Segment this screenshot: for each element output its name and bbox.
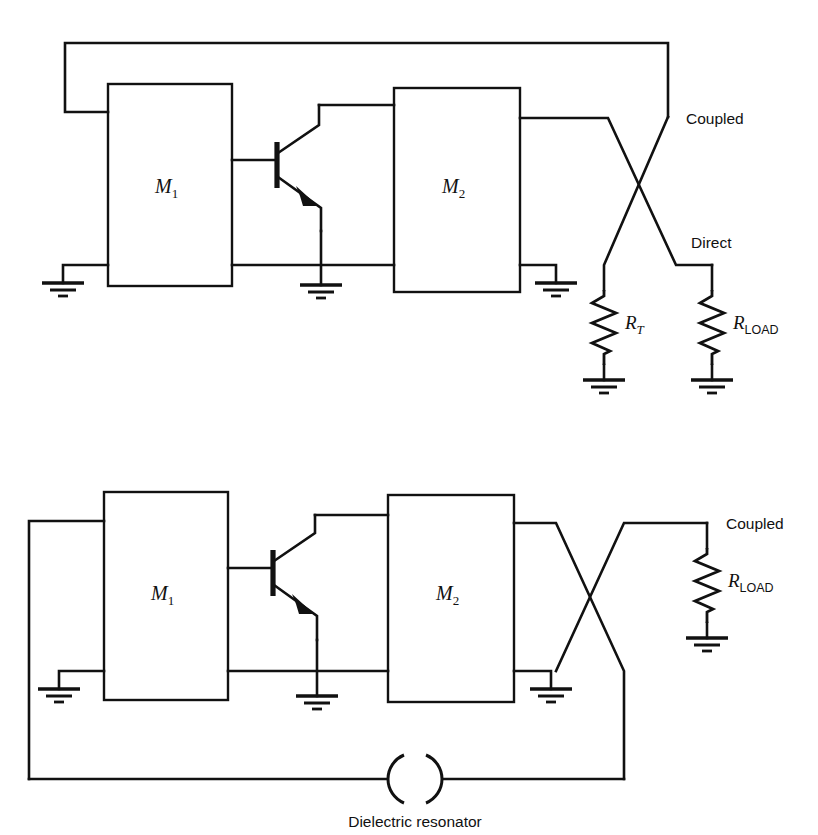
circuit-figure: M1 M2 [0, 0, 818, 835]
block-m1-bottom-label: M1 [150, 582, 174, 608]
m2-output-crossing-wire [520, 118, 712, 265]
transistor-q1 [277, 105, 321, 231]
resonator-to-coupled-wire [556, 523, 707, 671]
circuit-svg: M1 M2 [0, 0, 818, 835]
ground-symbol-rload-top [691, 380, 733, 393]
dielectric-resonator-arc-right [426, 755, 442, 803]
ground-symbol-m1 [42, 283, 84, 296]
resistor-rload-bottom-zigzag [695, 548, 719, 623]
label-coupled-bottom: Coupled [726, 515, 784, 532]
resistor-rload-top-zigzag [700, 290, 724, 365]
top-circuit: M1 M2 [42, 43, 779, 393]
label-direct-top: Direct [691, 234, 732, 251]
transistor-q1-bottom [273, 515, 317, 640]
resistor-rload-top: RLOAD [700, 265, 779, 380]
ground-symbol-rload-bottom [686, 638, 728, 651]
m1-ground-wire [63, 265, 108, 283]
resistor-rload-bottom: RLOAD [695, 523, 774, 638]
ground-symbol-m2-bottom [530, 689, 572, 702]
dielectric-resonator-arc-left [388, 755, 404, 803]
ground-symbol-emitter [300, 285, 342, 298]
ground-symbol-m2 [535, 283, 577, 296]
block-m2-label: M2 [441, 175, 465, 201]
bottom-left-feedback-wire [29, 521, 104, 779]
m2-ground-wire [520, 265, 556, 283]
m1-ground-wire-bottom [59, 671, 104, 689]
dielectric-resonator-caption: Dielectric resonator [348, 813, 482, 830]
resistor-rt-zigzag [592, 290, 616, 365]
dielectric-resonator-symbol [388, 755, 442, 803]
ground-symbol-m1-bottom [38, 689, 80, 702]
resistor-rload-top-label: RLOAD [732, 312, 779, 337]
feedback-crossing-to-rt-wire [604, 117, 668, 290]
ground-symbol-rt [583, 380, 625, 393]
m2-ground-wire-bottom [514, 671, 551, 689]
block-m2-bottom-label: M2 [435, 582, 459, 608]
resistor-rt: RT [592, 290, 645, 380]
bottom-circuit: M1 M2 [29, 492, 784, 830]
transistor-collector-lead [278, 105, 319, 153]
transistor-collector-lead-bottom [274, 515, 315, 561]
ground-symbol-emitter-bottom [296, 696, 338, 709]
resistor-rt-label: RT [624, 312, 645, 337]
block-m1-label: M1 [154, 175, 178, 201]
label-coupled-top: Coupled [686, 110, 744, 127]
resistor-rload-bottom-label: RLOAD [727, 570, 774, 595]
